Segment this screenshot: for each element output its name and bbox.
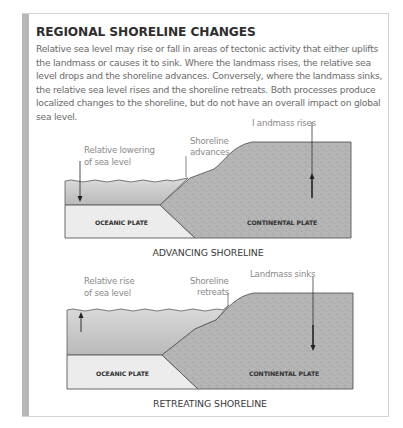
landmass-label: Landmass sinks xyxy=(250,269,316,279)
continental-plate-label: CONTINENTAL PLATE xyxy=(249,370,319,377)
shoreline-label-line2: advances xyxy=(190,147,230,157)
sea-level-label-line2: of sea level xyxy=(84,157,131,167)
oceanic-plate-label: OCEANIC PLATE xyxy=(96,370,149,377)
shoreline-diagrams: Relative lowering of sea level Shoreline… xyxy=(0,0,403,428)
advancing-shoreline-diagram: Relative lowering of sea level Shoreline… xyxy=(65,118,351,258)
retreating-shoreline-diagram: Relative rise of sea level Shoreline ret… xyxy=(67,269,353,409)
sea-level-label-line2: of sea level xyxy=(84,288,131,298)
shoreline-label-line1: Shoreline xyxy=(190,276,229,286)
diagram-caption: ADVANCING SHORELINE xyxy=(152,247,263,258)
diagram-caption: RETREATING SHORELINE xyxy=(153,398,267,409)
oceanic-plate-label: OCEANIC PLATE xyxy=(95,219,148,226)
landmass-label: I andmass rises xyxy=(252,118,317,128)
continental-plate-label: CONTINENTAL PLATE xyxy=(247,219,317,226)
shoreline-label-line2: retreats xyxy=(197,287,230,297)
sea-level-label-line1: Relative lowering xyxy=(84,145,155,155)
sea-level-label-line1: Relative rise xyxy=(84,276,134,286)
shoreline-label-line1: Shoreline xyxy=(190,136,229,146)
